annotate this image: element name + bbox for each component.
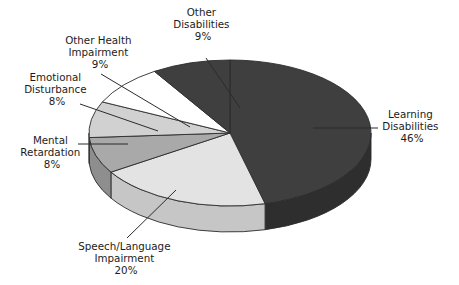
pie-top-faces: Learning Disabilities 46%Speech/Language… xyxy=(89,60,371,206)
pie-chart-svg: Learning Disabilities 46%Speech/Language… xyxy=(0,0,459,285)
label-mental-retardation: Mental Retardation 8% xyxy=(20,134,83,170)
label-other-disabilities: Other Disabilities 9% xyxy=(173,6,232,42)
label-learning-disabilities: Learning Disabilities 46% xyxy=(382,108,441,144)
label-emotional-disturbance: Emotional Disturbance 8% xyxy=(24,71,90,107)
label-speech-language-impairment: Speech/Language Impairment 20% xyxy=(78,240,174,276)
label-other-health-impairment: Other Health Impairment 9% xyxy=(65,34,135,70)
pie-chart-container: Learning Disabilities 46%Speech/Language… xyxy=(0,0,459,285)
